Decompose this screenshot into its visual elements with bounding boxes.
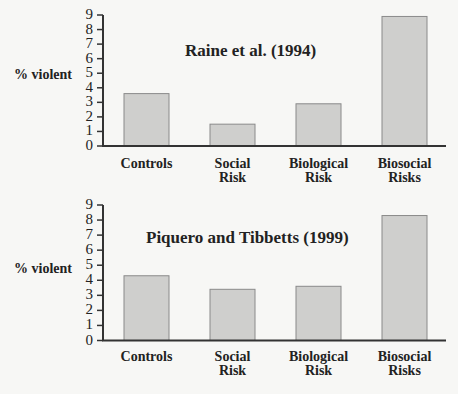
y-tick-label: 8 [81,212,93,227]
y-tick-label: 6 [81,51,93,66]
y-tick-label: 3 [81,287,93,302]
x-category-label: BiosocialRisks [360,350,450,378]
chart-title: Piquero and Tibbetts (1999) [146,228,349,248]
y-tick-label: 2 [81,302,93,317]
y-tick-label: 1 [81,317,93,332]
bar-biological-risk [296,104,341,146]
chart-title: Raine et al. (1994) [185,41,316,61]
bar-social-risk [210,124,255,146]
y-tick-label: 0 [81,333,93,348]
bar-biosocial-risks [382,216,427,341]
y-axis-label: % violent [14,261,72,277]
y-tick-label: 4 [81,80,93,95]
bar-controls [124,276,169,341]
x-category-label: BiosocialRisks [360,157,450,185]
y-tick-label: 5 [81,257,93,272]
y-tick-label: 6 [81,242,93,257]
y-tick-label: 2 [81,109,93,124]
y-tick-label: 0 [81,138,93,153]
y-tick-label: 7 [81,36,93,51]
raine-chart: Raine et al. (1994) % violent 0123456789… [0,0,458,192]
y-tick-label: 9 [81,197,93,212]
y-tick-label: 3 [81,94,93,109]
y-tick-label: 7 [81,227,93,242]
x-category-label: BiologicalRisk [274,350,364,378]
bar-biological-risk [296,286,341,340]
y-tick-label: 4 [81,272,93,287]
bar-social-risk [210,289,255,340]
x-category-label: Controls [102,157,192,171]
y-tick-label: 5 [81,65,93,80]
y-tick-label: 1 [81,123,93,138]
x-category-label: SocialRisk [188,350,278,378]
y-tick-label: 9 [81,7,93,22]
piquero-chart: Piquero and Tibbetts (1999) % violent 01… [0,195,458,394]
bar-biosocial-risks [382,16,427,146]
x-category-label: BiologicalRisk [274,157,364,185]
y-axis-label: % violent [14,67,72,83]
x-category-label: Controls [102,350,192,364]
y-tick-label: 8 [81,22,93,37]
x-category-label: SocialRisk [188,157,278,185]
bar-controls [124,94,169,146]
